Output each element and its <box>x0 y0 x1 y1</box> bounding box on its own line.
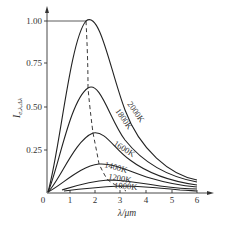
y-tick-label: 1.00 <box>26 16 42 26</box>
x-tick-label: 2 <box>93 195 98 205</box>
x-tick-label: 3 <box>118 195 123 205</box>
y-tick-label: 0.25 <box>26 145 42 155</box>
x-tick-label: 5 <box>170 195 175 205</box>
y-axis-title: Ie,λ,Δλ <box>12 98 24 119</box>
origin-label: 0 <box>41 195 46 205</box>
y-axis-arrow-icon <box>45 6 49 13</box>
x-tick-label: 6 <box>195 195 200 205</box>
x-axis-arrow-icon <box>207 191 214 195</box>
x-axis-title: λ/μm <box>117 208 137 218</box>
y-tick-label: 0.50 <box>26 102 42 112</box>
curve-label-1000k: 1000K <box>114 180 139 192</box>
axes <box>44 6 214 195</box>
y-tick-label: 0.75 <box>26 58 42 68</box>
blackbody-radiation-chart: 0.25 0.50 0.75 1.00 0 1 2 3 4 5 6 λ/μm I… <box>0 0 226 227</box>
x-tick-label: 1 <box>68 195 73 205</box>
x-tick-label: 4 <box>144 195 149 205</box>
